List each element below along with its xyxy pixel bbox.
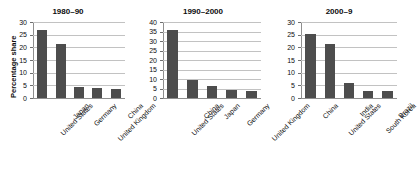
y-tick-label: 5: [270, 82, 295, 89]
bar: [382, 91, 393, 98]
y-tick-label: 40: [136, 19, 157, 26]
bar: [226, 90, 237, 98]
y-tick-mark: [298, 60, 301, 61]
x-axis-category-label: Germany: [92, 102, 117, 127]
y-tick-label: 25: [270, 31, 295, 38]
x-axis-category-label: China: [321, 102, 339, 120]
y-tick-label: 25: [0, 31, 27, 38]
bar: [305, 34, 316, 98]
y-tick-label: 35: [136, 28, 157, 35]
bar: [37, 30, 47, 98]
panel-title: 1980–90: [0, 7, 136, 16]
bar: [111, 89, 121, 98]
y-tick-mark: [298, 98, 301, 99]
y-tick-mark: [30, 98, 33, 99]
y-tick-label: 5: [0, 82, 27, 89]
y-tick-label: 20: [0, 44, 27, 51]
y-tick-label: 15: [270, 57, 295, 64]
y-tick-label: 0: [270, 95, 295, 102]
bar: [92, 88, 102, 98]
y-tick-mark: [298, 85, 301, 86]
y-tick-mark: [160, 41, 163, 42]
gridline: [33, 98, 125, 99]
y-tick-label: 15: [136, 66, 157, 73]
y-tick-label: 10: [0, 69, 27, 76]
y-tick-label: 15: [0, 57, 27, 64]
bar: [344, 83, 355, 98]
panel-title: 2000–9: [270, 7, 408, 16]
x-axis-category-label: Germany: [245, 102, 270, 127]
y-tick-label: 10: [270, 69, 295, 76]
bar: [187, 80, 198, 98]
y-tick-label: 5: [136, 85, 157, 92]
gridline: [301, 22, 397, 23]
y-tick-mark: [30, 35, 33, 36]
y-tick-mark: [30, 47, 33, 48]
bar: [246, 91, 257, 98]
y-tick-mark: [30, 22, 33, 23]
y-tick-mark: [160, 60, 163, 61]
y-tick-mark: [160, 32, 163, 33]
y-tick-label: 30: [136, 38, 157, 45]
gridline: [163, 98, 261, 99]
plot-area: [33, 22, 125, 98]
y-tick-label: 20: [136, 57, 157, 64]
bar: [363, 91, 374, 98]
chart-panel-2: 1990–20000510152025303540United StatesCh…: [136, 0, 270, 171]
bar: [207, 86, 218, 98]
plot-area: [301, 22, 397, 98]
gridline: [301, 98, 397, 99]
y-tick-mark: [160, 51, 163, 52]
gridline: [163, 22, 261, 23]
y-tick-mark: [298, 47, 301, 48]
y-tick-mark: [160, 22, 163, 23]
y-tick-label: 25: [136, 47, 157, 54]
y-tick-label: 30: [270, 19, 295, 26]
y-tick-mark: [298, 73, 301, 74]
y-tick-label: 0: [0, 95, 27, 102]
y-tick-mark: [160, 70, 163, 71]
chart-panel-3: 2000–9051015202530ChinaUnited StatesIndi…: [270, 0, 408, 171]
plot-area: [163, 22, 261, 98]
bar: [74, 87, 84, 98]
y-tick-label: 10: [136, 76, 157, 83]
y-tick-label: 0: [136, 95, 157, 102]
y-tick-mark: [160, 98, 163, 99]
y-tick-mark: [30, 73, 33, 74]
gridline: [33, 22, 125, 23]
bar: [167, 30, 178, 98]
y-tick-label: 20: [270, 44, 295, 51]
x-axis-category-label: Japan: [223, 102, 241, 120]
chart-panel-1: 1980–90Percentage share051015202530Unite…: [0, 0, 136, 171]
y-tick-mark: [160, 89, 163, 90]
bar: [325, 44, 336, 98]
y-tick-mark: [30, 85, 33, 86]
y-tick-mark: [160, 79, 163, 80]
bar: [56, 44, 66, 98]
y-tick-mark: [298, 35, 301, 36]
y-tick-mark: [298, 22, 301, 23]
panel-title: 1990–2000: [136, 7, 270, 16]
y-tick-label: 30: [0, 19, 27, 26]
y-tick-mark: [30, 60, 33, 61]
